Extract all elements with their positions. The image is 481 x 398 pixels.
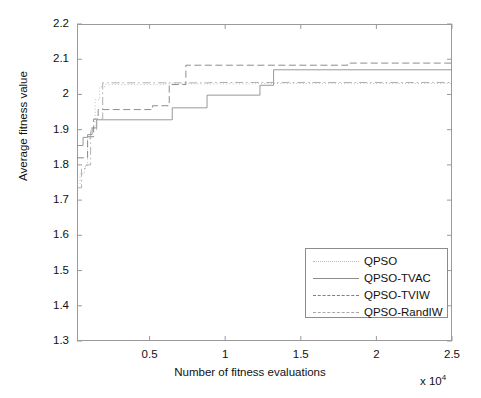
legend-item-label: QPSO-RandIW [364,305,443,320]
legend-item-qpso[interactable]: QPSO [306,253,449,270]
y-tick-label: 2.2 [39,18,69,30]
figure-canvas: 1.31.41.51.61.71.81.922.12.2 0.511.522.5… [0,0,481,398]
y-tick-label: 1.8 [39,159,69,171]
legend-line-key-icon [313,295,359,296]
chart-render-layer [0,0,481,398]
legend-line-key-icon [313,261,359,262]
y-tick-label: 1.4 [39,300,69,312]
y-axis-label: Average fitness value [17,41,29,211]
y-tick-label: 1.6 [39,229,69,241]
legend-line-key-icon [313,312,359,313]
data-series-group [77,63,452,188]
x-tick-label: 0.5 [130,349,170,361]
legend-box: QPSOQPSO-TVACQPSO-TVIWQPSO-RandIW [305,248,448,318]
series-line-qpso-randiw [77,82,452,187]
y-tick-label: 1.3 [39,335,69,347]
legend-item-label: QPSO-TVIW [364,288,430,303]
x-axis-label: Number of fitness evaluations [120,366,380,378]
legend-item-qpso-tvac[interactable]: QPSO-TVAC [306,270,449,287]
x-tick-label: 2 [356,349,396,361]
x-multiplier-base: x 10 [420,375,442,387]
legend-item-qpso-tviw[interactable]: QPSO-TVIW [306,287,449,304]
series-line-qpso-tvac [77,70,452,146]
y-tick-label: 1.9 [39,124,69,136]
y-tick-label: 1.7 [39,194,69,206]
y-tick-label: 2 [39,88,69,100]
y-tick-label: 1.5 [39,265,69,277]
x-tick-label: 2.5 [432,349,472,361]
legend-item-label: QPSO-TVAC [364,271,431,286]
legend-item-qpso-randiw[interactable]: QPSO-RandIW [306,304,449,321]
x-tick-label: 1.5 [281,349,321,361]
x-tick-label: 1 [205,349,245,361]
series-line-qpso-tviw [77,63,452,158]
legend-item-label: QPSO [364,254,397,269]
y-tick-label: 2.1 [39,53,69,65]
series-line-qpso [77,84,452,185]
x-axis-multiplier: x 104 [420,373,446,387]
legend-line-key-icon [313,278,359,279]
x-multiplier-exponent: 4 [442,373,446,382]
